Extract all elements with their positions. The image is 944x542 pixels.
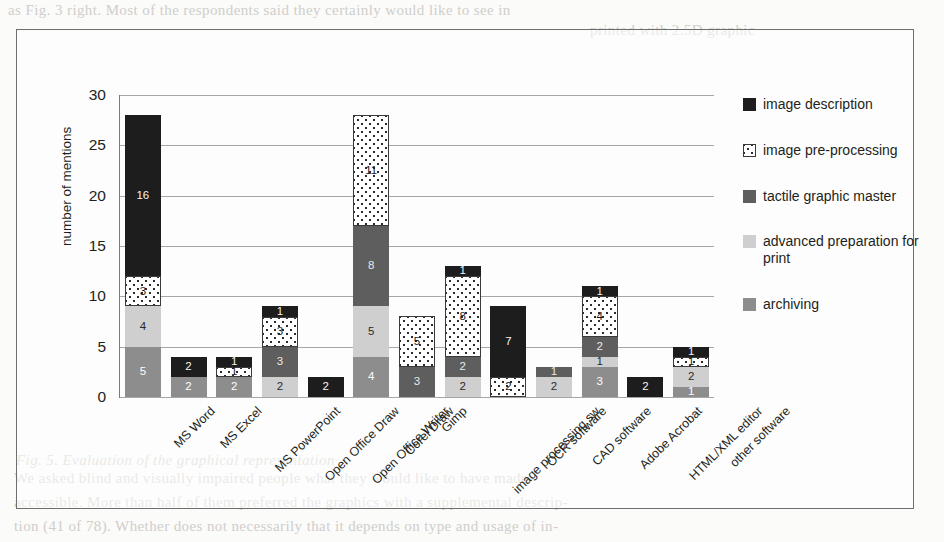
legend-item[interactable]: image description <box>743 96 923 113</box>
bar-open-office-draw[interactable]: 2331 <box>262 306 298 397</box>
legend-item-label: advanced preparation for print <box>763 233 923 267</box>
legend-item[interactable]: tactile graphic master <box>743 188 923 205</box>
bar-segment-value: 1 <box>688 386 694 398</box>
bar-segment[interactable]: 2 <box>627 377 663 397</box>
bar-segment[interactable]: 2 <box>536 377 572 397</box>
y-tick-label: 5 <box>66 338 106 356</box>
bar-segment-value: 1 <box>231 366 237 378</box>
bar-ms-word[interactable]: 54316 <box>125 115 161 397</box>
solid-black-swatch <box>743 98 756 111</box>
plot-area: 051015202530 543162221123312458113522812… <box>120 95 714 397</box>
x-tick-label: MS Excel <box>217 404 264 451</box>
chart-figure-frame: number of mentions 051015202530 54316222… <box>16 29 914 509</box>
bar-segment[interactable]: 4 <box>353 357 389 397</box>
bar-ms-excel[interactable]: 22 <box>171 357 207 397</box>
bar-segment-value: 2 <box>642 381 648 393</box>
solid-mid-gray-swatch <box>743 298 756 311</box>
bar-gimp[interactable]: 35 <box>399 316 435 397</box>
bar-segment[interactable]: 4 <box>582 296 618 336</box>
bar-segment-value: 8 <box>459 311 465 323</box>
bar-segment-value: 2 <box>597 341 603 353</box>
bar-segment[interactable]: 3 <box>582 367 618 397</box>
bar-segment-value: 3 <box>277 326 283 338</box>
bar-segment-value: 2 <box>688 371 694 383</box>
bar-segment-value: 3 <box>414 376 420 388</box>
legend-item[interactable]: archiving <box>743 296 923 313</box>
bar-segment[interactable]: 2 <box>171 357 207 377</box>
bar-segment[interactable]: 5 <box>353 306 389 356</box>
gridline-10 <box>120 296 714 297</box>
gridline-0 <box>120 397 714 398</box>
bar-segment[interactable]: 11 <box>353 115 389 226</box>
legend-item[interactable]: image pre-processing <box>743 142 923 159</box>
bar-cad-software[interactable]: 21 <box>536 367 572 397</box>
y-tick-label: 0 <box>66 388 106 406</box>
bar-segment[interactable]: 4 <box>125 306 161 346</box>
bar-ocr-software[interactable]: 27 <box>490 306 526 397</box>
bar-segment-value: 3 <box>140 286 146 298</box>
bar-segment-value: 2 <box>459 361 465 373</box>
bar-segment[interactable]: 1 <box>216 367 252 377</box>
bar-segment[interactable]: 2 <box>445 377 481 397</box>
bar-segment-value: 2 <box>505 381 511 393</box>
bar-other-software[interactable]: 1211 <box>673 347 709 397</box>
dotted-white-swatch <box>743 144 756 157</box>
bar-segment[interactable]: 1 <box>673 347 709 357</box>
bar-segment-value: 2 <box>277 381 283 393</box>
bar-segment[interactable]: 1 <box>673 357 709 367</box>
bar-segment-value: 3 <box>277 356 283 368</box>
bar-html-xml-editor[interactable]: 2 <box>627 377 663 397</box>
legend-item-label: archiving <box>763 296 819 313</box>
bar-segment[interactable]: 2 <box>445 357 481 377</box>
bar-segment-value: 5 <box>140 366 146 378</box>
bar-segment[interactable]: 1 <box>536 367 572 377</box>
bar-segment-value: 7 <box>505 336 511 348</box>
bar-segment[interactable]: 2 <box>216 377 252 397</box>
bar-segment[interactable]: 3 <box>125 276 161 306</box>
bar-segment-value: 1 <box>597 286 603 298</box>
bar-segment[interactable]: 1 <box>673 387 709 397</box>
bar-adobe-acrobat[interactable]: 31241 <box>582 286 618 397</box>
bar-segment[interactable]: 1 <box>445 266 481 276</box>
bar-segment[interactable]: 2 <box>171 377 207 397</box>
bar-segment-value: 5 <box>368 326 374 338</box>
bar-segment[interactable]: 8 <box>445 276 481 357</box>
bar-segment-value: 4 <box>140 321 146 333</box>
y-tick-label: 30 <box>66 86 106 104</box>
chart-legend: image descriptionimage pre-processingtac… <box>743 96 923 342</box>
gridline-30 <box>120 95 714 96</box>
bar-segment[interactable]: 1 <box>582 286 618 296</box>
bar-segment[interactable]: 3 <box>262 347 298 377</box>
bar-segment[interactable]: 7 <box>490 306 526 376</box>
y-tick-label: 20 <box>66 187 106 205</box>
bar-segment-value: 5 <box>414 336 420 348</box>
bar-segment-value: 1 <box>459 265 465 277</box>
bar-image-processing-sw[interactable]: 2281 <box>445 266 481 397</box>
bar-segment[interactable]: 1 <box>216 357 252 367</box>
y-tick-label: 25 <box>66 136 106 154</box>
bar-open-office-writer[interactable]: 2 <box>308 377 344 397</box>
bar-segment[interactable]: 2 <box>262 377 298 397</box>
bar-ms-powerpoint[interactable]: 211 <box>216 357 252 397</box>
bar-segment[interactable]: 2 <box>308 377 344 397</box>
bar-segment[interactable]: 5 <box>125 347 161 397</box>
bar-segment[interactable]: 16 <box>125 115 161 276</box>
bleedthrough-top-line-1: as Fig. 3 right. Most of the respondents… <box>8 2 511 19</box>
bar-segment[interactable]: 2 <box>582 337 618 357</box>
bleedthrough-bottom-line-3: tion (41 of 78). Whether does not necess… <box>14 518 558 535</box>
bar-segment-value: 2 <box>551 381 557 393</box>
gridline-15 <box>120 246 714 247</box>
legend-item[interactable]: advanced preparation for print <box>743 233 923 267</box>
bar-segment[interactable]: 3 <box>399 367 435 397</box>
bar-segment[interactable]: 2 <box>490 377 526 397</box>
bar-corel-draw[interactable]: 45811 <box>353 115 389 397</box>
bar-segment-value: 16 <box>136 190 149 202</box>
bar-segment[interactable]: 8 <box>353 226 389 307</box>
y-tick-label: 15 <box>66 237 106 255</box>
bar-segment[interactable]: 2 <box>673 367 709 387</box>
bar-segment[interactable]: 1 <box>582 357 618 367</box>
bar-segment-value: 4 <box>597 311 603 323</box>
bar-segment[interactable]: 1 <box>262 306 298 316</box>
bar-segment[interactable]: 5 <box>399 316 435 366</box>
bar-segment[interactable]: 3 <box>262 317 298 347</box>
